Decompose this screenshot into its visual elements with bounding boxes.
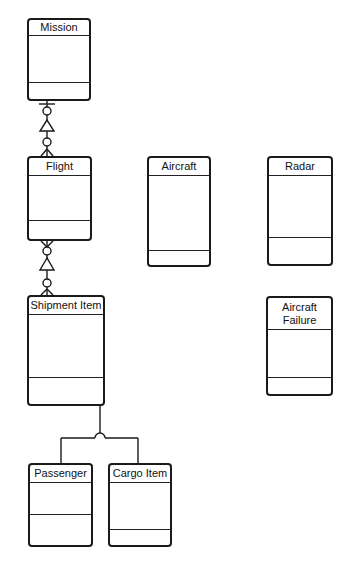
zero-circle-icon	[43, 138, 51, 146]
connector-layer	[0, 0, 353, 561]
zero-circle-icon	[43, 247, 51, 255]
relationship-mission-flight	[39, 101, 55, 156]
relationship-flight-shipment	[40, 241, 54, 295]
relationship-triangle-icon	[40, 120, 54, 131]
subtype-arc-icon	[95, 433, 105, 438]
zero-circle-icon	[43, 279, 51, 287]
zero-circle-icon	[43, 107, 51, 115]
relationship-triangle-icon	[40, 258, 54, 270]
generalization-shipment	[61, 406, 138, 463]
